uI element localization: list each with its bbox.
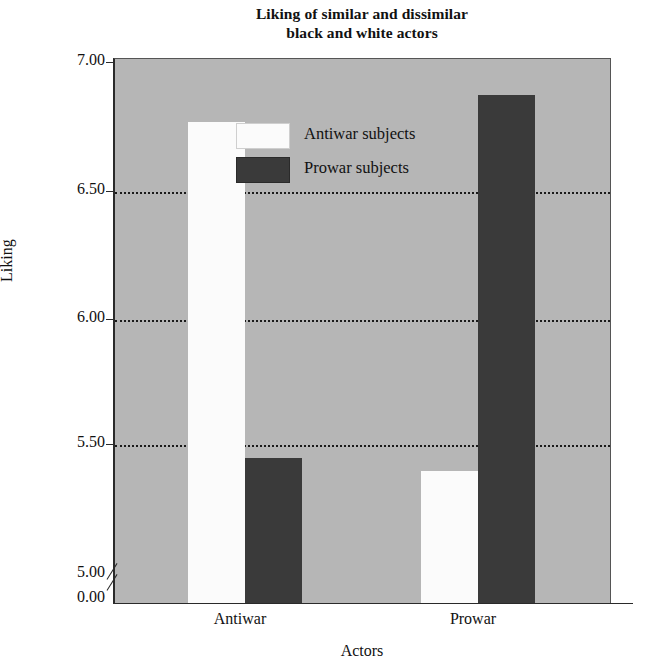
x-axis-line (113, 603, 633, 604)
y-axis-label: Liking (0, 239, 16, 282)
x-tick-label-antiwar: Antiwar (183, 610, 297, 628)
plot-area: Antiwar subjects Prowar subjects (113, 58, 611, 603)
legend-swatch-light-icon (236, 123, 290, 149)
y-tick-label-6-00: 6.00 (77, 308, 105, 326)
bar-antiwar-actors-prowar-subjects (245, 458, 302, 603)
y-axis-break-icon (107, 573, 123, 599)
x-axis-label: Actors (113, 642, 611, 660)
chart-title-line-2: black and white actors (113, 23, 611, 42)
y-tick-label-0-00: 0.00 (77, 588, 105, 606)
chart-figure: Liking of similar and dissimilar black a… (0, 0, 646, 666)
bar-prowar-actors-antiwar-subjects (421, 471, 478, 603)
legend-label-prowar-subjects: Prowar subjects (304, 158, 409, 178)
chart-title-line-1: Liking of similar and dissimilar (113, 4, 611, 23)
bar-prowar-actors-prowar-subjects (478, 95, 535, 603)
y-tick-label-5-50: 5.50 (77, 433, 105, 451)
y-tick-label-5-00: 5.00 (77, 563, 105, 581)
chart-title: Liking of similar and dissimilar black a… (113, 4, 611, 42)
bar-antiwar-actors-antiwar-subjects (188, 122, 245, 603)
legend-swatch-dark-icon (236, 157, 290, 183)
x-tick-label-prowar: Prowar (416, 610, 530, 628)
legend-label-antiwar-subjects: Antiwar subjects (304, 124, 415, 144)
y-tick-label-6-50: 6.50 (77, 180, 105, 198)
y-tick-label-7-00: 7.00 (77, 51, 105, 69)
